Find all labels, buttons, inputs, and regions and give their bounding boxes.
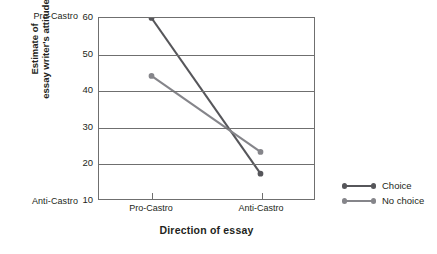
series-line-choice bbox=[152, 18, 261, 174]
gridline-50 bbox=[99, 55, 314, 56]
data-point-no-choice-0 bbox=[149, 73, 155, 79]
gridline-40 bbox=[99, 91, 314, 92]
x-tick-label-1: Anti-Castro bbox=[238, 203, 283, 213]
y-axis-tick-labels: 605040302010 bbox=[74, 0, 93, 254]
y-tick-label-50: 50 bbox=[74, 48, 93, 59]
legend-item-no-choice[interactable]: No choice bbox=[342, 195, 424, 206]
gridline-20 bbox=[99, 164, 314, 165]
y-axis-title-line1: Estimate of bbox=[29, 23, 40, 74]
series-lines bbox=[99, 18, 314, 199]
chart-canvas: Pro-Castro Anti-Castro Estimate of essay… bbox=[0, 0, 437, 254]
x-tick-mark-0 bbox=[152, 193, 153, 199]
y-axis-anchor-low-label: Anti-Castro bbox=[0, 196, 78, 206]
data-point-no-choice-1 bbox=[258, 149, 264, 155]
y-tick-label-20: 20 bbox=[74, 157, 93, 168]
y-tick-label-60: 60 bbox=[74, 11, 93, 22]
y-axis-title: Estimate of essay writer's attitude bbox=[25, 0, 55, 133]
y-tick-label-30: 30 bbox=[74, 121, 93, 132]
legend-swatch-icon bbox=[342, 196, 376, 205]
y-tick-label-40: 40 bbox=[74, 84, 93, 95]
y-axis-title-line2: essay writer's attitude bbox=[40, 0, 51, 99]
legend-label: Choice bbox=[382, 180, 412, 191]
y-tick-label-10: 10 bbox=[74, 194, 93, 205]
legend-swatch-icon bbox=[342, 181, 376, 190]
x-tick-mark-1 bbox=[262, 193, 263, 199]
legend-label: No choice bbox=[382, 195, 424, 206]
gridline-30 bbox=[99, 128, 314, 129]
chart-legend: ChoiceNo choice bbox=[342, 180, 424, 206]
data-point-choice-1 bbox=[258, 171, 264, 177]
plot-area bbox=[98, 17, 315, 200]
series-line-no-choice bbox=[152, 76, 261, 152]
x-tick-label-0: Pro-Castro bbox=[129, 203, 173, 213]
x-axis-title: Direction of essay bbox=[98, 224, 315, 236]
legend-item-choice[interactable]: Choice bbox=[342, 180, 424, 191]
